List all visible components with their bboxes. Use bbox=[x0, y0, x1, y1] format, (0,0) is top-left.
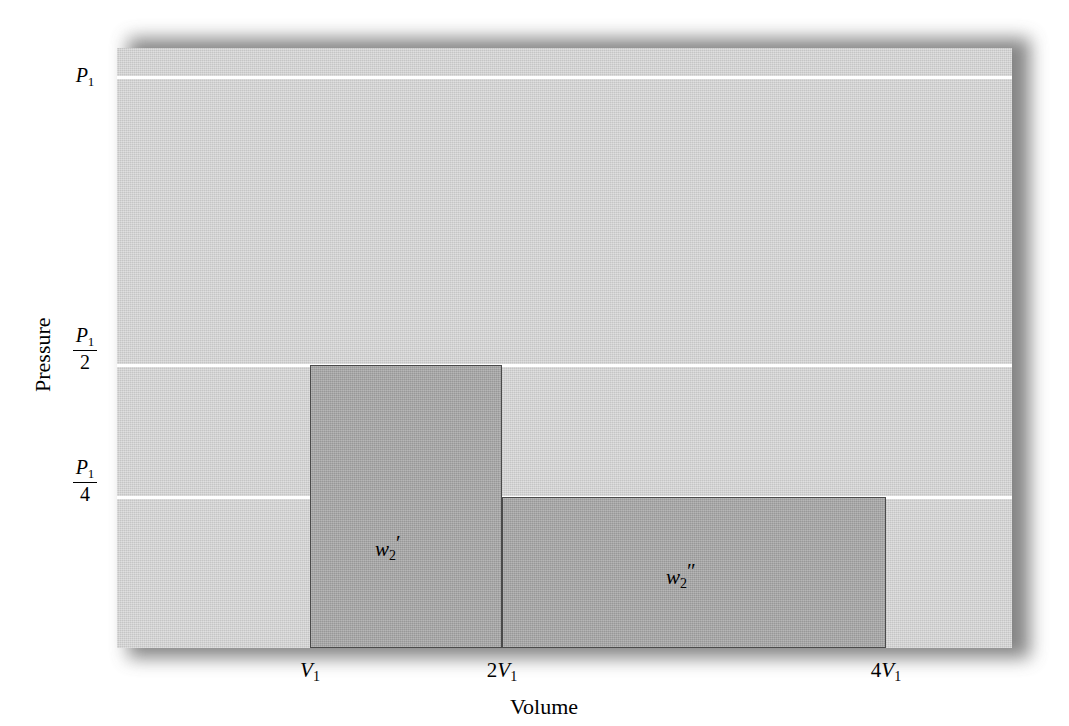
fraction-p1-over-4: P1 4 bbox=[73, 457, 98, 505]
xtick-label-4v1: 4V1 bbox=[846, 658, 926, 685]
xtick-2v1-subscript: 1 bbox=[510, 669, 517, 684]
bar-label-w2-prime-mark: ′ bbox=[396, 531, 400, 555]
ytick-p1-over-2-subscript: 1 bbox=[88, 334, 95, 349]
xtick-2v1-symbol: V bbox=[497, 658, 510, 682]
bar-label-w2-prime-subscript: 2 bbox=[389, 548, 396, 563]
gridline-p1 bbox=[117, 76, 1012, 79]
xtick-4v1-symbol: V bbox=[881, 658, 894, 682]
ytick-label-p1-over-4: P1 4 bbox=[63, 457, 107, 506]
bar-label-w2-double-prime-subscript: 2 bbox=[680, 576, 687, 591]
ytick-p1-over-4-symbol: P bbox=[76, 456, 88, 478]
xtick-label-2v1: 2V1 bbox=[462, 658, 542, 685]
fraction-p1-over-4-denominator: 4 bbox=[73, 483, 98, 505]
bar-label-w2-double-prime: w2″ bbox=[666, 559, 695, 592]
y-axis-title: Pressure bbox=[30, 317, 56, 392]
ytick-label-p1: P1 bbox=[63, 64, 107, 90]
bar-label-w2-double-prime-mark: ″ bbox=[687, 559, 695, 583]
xtick-v1-subscript: 1 bbox=[313, 669, 320, 684]
bar-label-w2-prime: w2′ bbox=[375, 531, 400, 564]
bar-label-w2-double-prime-symbol: w bbox=[666, 565, 680, 589]
fraction-p1-over-2-denominator: 2 bbox=[73, 351, 98, 373]
fraction-p1-over-2-numerator: P1 bbox=[73, 325, 98, 351]
ytick-p1-over-4-subscript: 1 bbox=[88, 466, 95, 481]
gridline-p1-over-2 bbox=[117, 364, 1012, 367]
ytick-p1-over-2-symbol: P bbox=[76, 324, 88, 346]
fraction-p1-over-4-numerator: P1 bbox=[73, 457, 98, 483]
xtick-label-v1: V1 bbox=[270, 658, 350, 685]
bar-w2-prime bbox=[310, 365, 502, 648]
xtick-2v1-coefficient: 2 bbox=[487, 658, 498, 682]
xtick-4v1-subscript: 1 bbox=[894, 669, 901, 684]
xtick-v1-symbol: V bbox=[300, 658, 313, 682]
pressure-volume-figure: w2′ w2″ P1 P1 2 P1 4 V1 2V1 4V1 Volume P… bbox=[0, 0, 1069, 726]
bar-label-w2-prime-symbol: w bbox=[375, 537, 389, 561]
fraction-p1-over-2: P1 2 bbox=[73, 325, 98, 373]
ytick-p1-subscript: 1 bbox=[88, 74, 95, 89]
ytick-p1-symbol: P bbox=[76, 64, 88, 86]
ytick-label-p1-over-2: P1 2 bbox=[63, 325, 107, 374]
xtick-4v1-coefficient: 4 bbox=[871, 658, 882, 682]
plot-area: w2′ w2″ bbox=[117, 48, 1012, 648]
x-axis-title: Volume bbox=[484, 694, 604, 720]
